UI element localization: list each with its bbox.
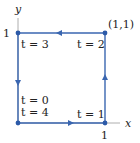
vertex-bottom-right: [103, 121, 108, 126]
arrow-up-icon: [102, 74, 108, 80]
y-tick-label: 1: [3, 27, 10, 40]
parametric-square-diagram: y x 1 1 (1,1) t = 0 t = 4 t = 1 t = 2 t …: [0, 0, 140, 143]
x-axis-label: x: [125, 117, 132, 130]
t1-label: t = 1: [77, 108, 105, 121]
arrow-left-icon: [56, 30, 62, 36]
vertex-top-right: [103, 31, 108, 36]
arrow-right-icon: [68, 120, 74, 126]
t2-label: t = 2: [77, 38, 105, 51]
y-axis-label: y: [14, 3, 22, 16]
t4-label: t = 4: [21, 106, 49, 119]
arrow-down-icon: [15, 80, 21, 86]
vertex-origin: [16, 121, 21, 126]
corner-label: (1,1): [108, 18, 134, 31]
t3-label: t = 3: [21, 38, 49, 51]
vertex-top-left: [16, 31, 21, 36]
x-tick-label: 1: [101, 129, 108, 142]
